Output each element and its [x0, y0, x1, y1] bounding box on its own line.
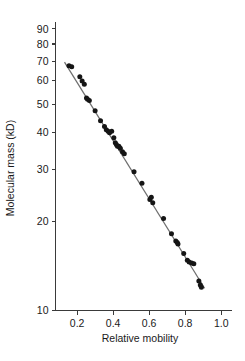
y-tick-label-10: 10	[37, 304, 49, 316]
data-point	[191, 261, 196, 266]
data-point	[87, 98, 92, 103]
data-point	[122, 151, 127, 156]
data-point	[77, 74, 82, 79]
scatter-plot: 102030405060708090 0.20.40.60.81.0 Molec…	[0, 0, 245, 361]
y-axis-title: Molecular mass (kD)	[4, 120, 16, 216]
data-point	[109, 129, 114, 134]
data-point	[175, 242, 180, 247]
y-tick-label-40: 40	[37, 126, 49, 138]
x-tick-label-0.6: 0.6	[142, 317, 157, 329]
data-point	[132, 169, 137, 174]
data-point	[161, 216, 166, 221]
x-axis-ticks: 0.20.40.60.81.0	[70, 311, 229, 329]
data-point	[139, 181, 144, 186]
x-tick-label-1.0: 1.0	[214, 317, 229, 329]
data-point	[69, 64, 74, 69]
data-point	[98, 118, 103, 123]
x-tick-label-0.8: 0.8	[178, 317, 193, 329]
y-tick-label-30: 30	[37, 163, 49, 175]
y-tick-label-80: 80	[37, 38, 49, 50]
data-point	[199, 285, 204, 290]
x-tick-label-0.2: 0.2	[70, 317, 85, 329]
chart-figure: 102030405060708090 0.20.40.60.81.0 Molec…	[0, 0, 245, 361]
y-tick-label-50: 50	[37, 98, 49, 110]
y-tick-label-70: 70	[37, 55, 49, 67]
data-point	[150, 200, 155, 205]
x-axis-title: Relative mobility	[102, 332, 179, 344]
y-tick-label-90: 90	[37, 23, 49, 35]
y-tick-label-60: 60	[37, 74, 49, 86]
data-point	[181, 251, 186, 256]
data-point	[93, 108, 98, 113]
data-point	[169, 231, 174, 236]
y-axis-ticks: 102030405060708090	[37, 23, 56, 317]
x-tick-label-0.4: 0.4	[106, 317, 121, 329]
data-point	[82, 82, 87, 87]
data-point	[149, 195, 154, 200]
data-point	[111, 135, 116, 140]
y-tick-label-20: 20	[37, 215, 49, 227]
